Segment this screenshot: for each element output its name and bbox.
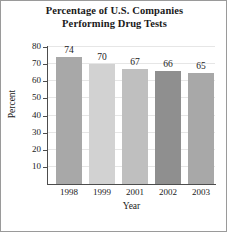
y-axis-tick-label: 60 — [19, 76, 41, 85]
bar-slot: 65 — [188, 47, 214, 184]
y-axis-title: Percent — [7, 69, 17, 139]
y-axis-tick-label: 70 — [19, 59, 41, 68]
bar-slot: 74 — [56, 47, 82, 184]
y-axis-tick-labels: 1020304050607080 — [17, 1, 41, 232]
bar-value-label: 65 — [179, 61, 223, 71]
chart-figure: Percentage of U.S. Companies Performing … — [0, 0, 227, 232]
y-axis-tick-label: 80 — [19, 42, 41, 51]
x-axis-tick-label: 2003 — [179, 187, 223, 197]
bar-slot: 67 — [122, 47, 148, 184]
y-axis-tick-label: 50 — [19, 93, 41, 102]
x-axis-line — [47, 184, 216, 185]
x-axis-tick-labels: 19981999200120022003 — [48, 187, 215, 201]
y-axis-tick-label: 10 — [19, 162, 41, 171]
bar-series: 7470676665 — [48, 47, 215, 184]
bar-slot: 66 — [155, 47, 181, 184]
bar — [155, 71, 181, 184]
bar — [89, 64, 115, 184]
bar — [188, 73, 214, 184]
bar-slot: 70 — [89, 47, 115, 184]
y-axis-tick-label: 40 — [19, 111, 41, 120]
x-axis-title: Year — [48, 201, 215, 211]
y-axis-tick-label: 20 — [19, 145, 41, 154]
y-axis-tick-label: 30 — [19, 128, 41, 137]
bar — [56, 57, 82, 184]
bar — [122, 69, 148, 184]
